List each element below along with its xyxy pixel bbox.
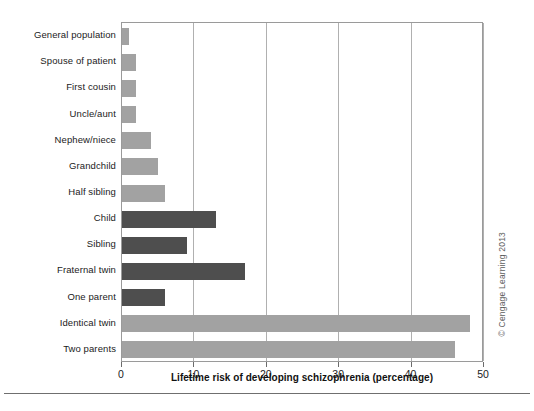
y-axis-label: Grandchild: [0, 161, 116, 171]
copyright-credit: © Cengage Learning 2013: [497, 232, 507, 336]
x-tick-mark: [193, 362, 194, 367]
bar: [122, 315, 470, 332]
y-axis-label: Spouse of patient: [0, 56, 116, 66]
bar: [122, 80, 136, 97]
bar: [122, 185, 165, 202]
x-tick-mark: [266, 362, 267, 367]
x-axis-ticks: 01020304050: [121, 362, 483, 368]
bottom-divider: [4, 393, 530, 394]
x-tick-mark: [121, 362, 122, 367]
x-axis-title: Lifetime risk of developing schizophreni…: [121, 372, 483, 383]
y-axis-label: Uncle/aunt: [0, 109, 116, 119]
bar: [122, 106, 136, 123]
bar: [122, 341, 455, 358]
gridline-50: [483, 23, 484, 361]
figure: General populationSpouse of patientFirst…: [0, 0, 534, 411]
bar: [122, 211, 216, 228]
gridline-20: [266, 23, 267, 361]
bar: [122, 158, 158, 175]
gridline-30: [338, 23, 339, 361]
y-axis-label: Half sibling: [0, 187, 116, 197]
x-tick-mark: [483, 362, 484, 367]
y-axis-label: Fraternal twin: [0, 265, 116, 275]
bar: [122, 28, 129, 45]
y-axis-label: Nephew/niece: [0, 135, 116, 145]
y-axis-label: Child: [0, 213, 116, 223]
y-axis-label: One parent: [0, 292, 116, 302]
bar: [122, 263, 245, 280]
x-tick-mark: [411, 362, 412, 367]
x-tick-mark: [338, 362, 339, 367]
y-axis-category-labels: General populationSpouse of patientFirst…: [0, 22, 116, 362]
y-axis-label: Sibling: [0, 239, 116, 249]
plot-area: [121, 22, 483, 362]
gridline-40: [411, 23, 412, 361]
y-axis-label: Two parents: [0, 344, 116, 354]
bar: [122, 132, 151, 149]
bar: [122, 54, 136, 71]
y-axis-label: General population: [0, 30, 116, 40]
y-axis-label: First cousin: [0, 82, 116, 92]
bar: [122, 237, 187, 254]
gridline-10: [193, 23, 194, 361]
y-axis-label: Identical twin: [0, 318, 116, 328]
bar: [122, 289, 165, 306]
